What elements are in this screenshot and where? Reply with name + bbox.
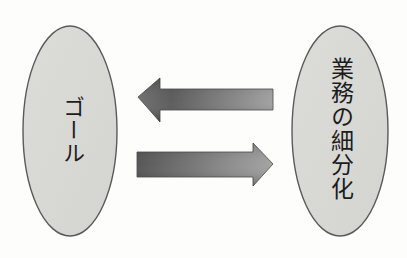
right-arrow-icon — [137, 143, 273, 186]
goal-label: ゴール — [58, 96, 82, 165]
diagram-canvas: ゴール 業務の細分化 — [0, 0, 407, 258]
left-arrow-icon — [138, 78, 273, 122]
task-breakdown-label: 業務の細分化 — [328, 57, 352, 201]
